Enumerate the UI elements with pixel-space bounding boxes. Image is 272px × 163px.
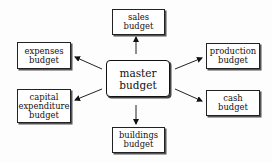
node-label: budget (29, 111, 59, 120)
arrow-to-expenses (75, 57, 102, 69)
master-budget-box: master budget (106, 60, 170, 97)
arrow-to-cash (175, 89, 202, 101)
production-budget-box: production budget (206, 43, 260, 69)
cash-budget-box: cash budget (206, 90, 260, 116)
budget-diagram: sales budget expenses budget production … (0, 0, 272, 163)
sales-budget-box: sales budget (112, 9, 165, 35)
capital-expenditure-budget-box: capital expenditure budget (17, 89, 71, 123)
expenses-budget-box: expenses budget (17, 42, 71, 69)
node-label: budget (124, 140, 154, 149)
node-label: budget (218, 103, 248, 112)
arrow-to-capital (75, 89, 102, 100)
buildings-budget-box: buildings budget (112, 127, 165, 153)
center-label: budget (119, 79, 156, 91)
node-label: budget (218, 56, 248, 65)
center-label: master (119, 67, 156, 79)
node-label: budget (124, 22, 154, 31)
arrow-to-production (175, 58, 202, 69)
node-label: budget (29, 56, 59, 65)
